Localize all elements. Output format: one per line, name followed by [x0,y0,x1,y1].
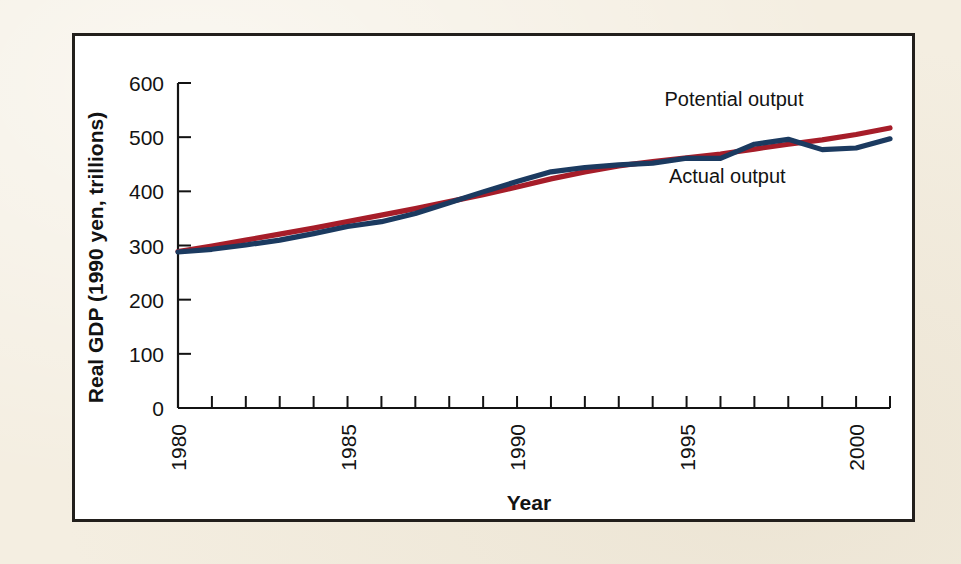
axis-titles: YearReal GDP (1990 yen, trillions) [84,112,551,514]
x-tick-label: 1980 [167,424,190,471]
x-axis: 19801985199019952000 [167,396,890,471]
y-tick-label: 200 [129,289,164,312]
y-axis-title: Real GDP (1990 yen, trillions) [84,112,107,403]
series-label-potential-output: Potential output [665,88,804,110]
y-tick-label: 400 [129,180,164,203]
x-tick-label: 1985 [337,424,360,471]
x-tick-label: 1990 [506,424,529,471]
y-axis: 0100200300400500600 [129,72,191,420]
series-annotations: Potential outputActual output [665,88,804,187]
series-lines [178,128,890,252]
y-tick-label: 100 [129,343,164,366]
x-tick-label: 2000 [845,424,868,471]
y-tick-label: 0 [152,397,164,420]
gdp-line-chart: 0100200300400500600 19801985199019952000… [75,36,912,519]
y-tick-label: 600 [129,72,164,95]
x-axis-title: Year [507,491,551,514]
y-tick-label: 500 [129,126,164,149]
series-label-actual-output: Actual output [669,165,786,187]
x-tick-label: 1995 [676,424,699,471]
figure-root: 0100200300400500600 19801985199019952000… [0,0,961,564]
y-tick-label: 300 [129,235,164,258]
chart-frame: 0100200300400500600 19801985199019952000… [72,33,915,522]
series-line-potential-output [178,128,890,252]
